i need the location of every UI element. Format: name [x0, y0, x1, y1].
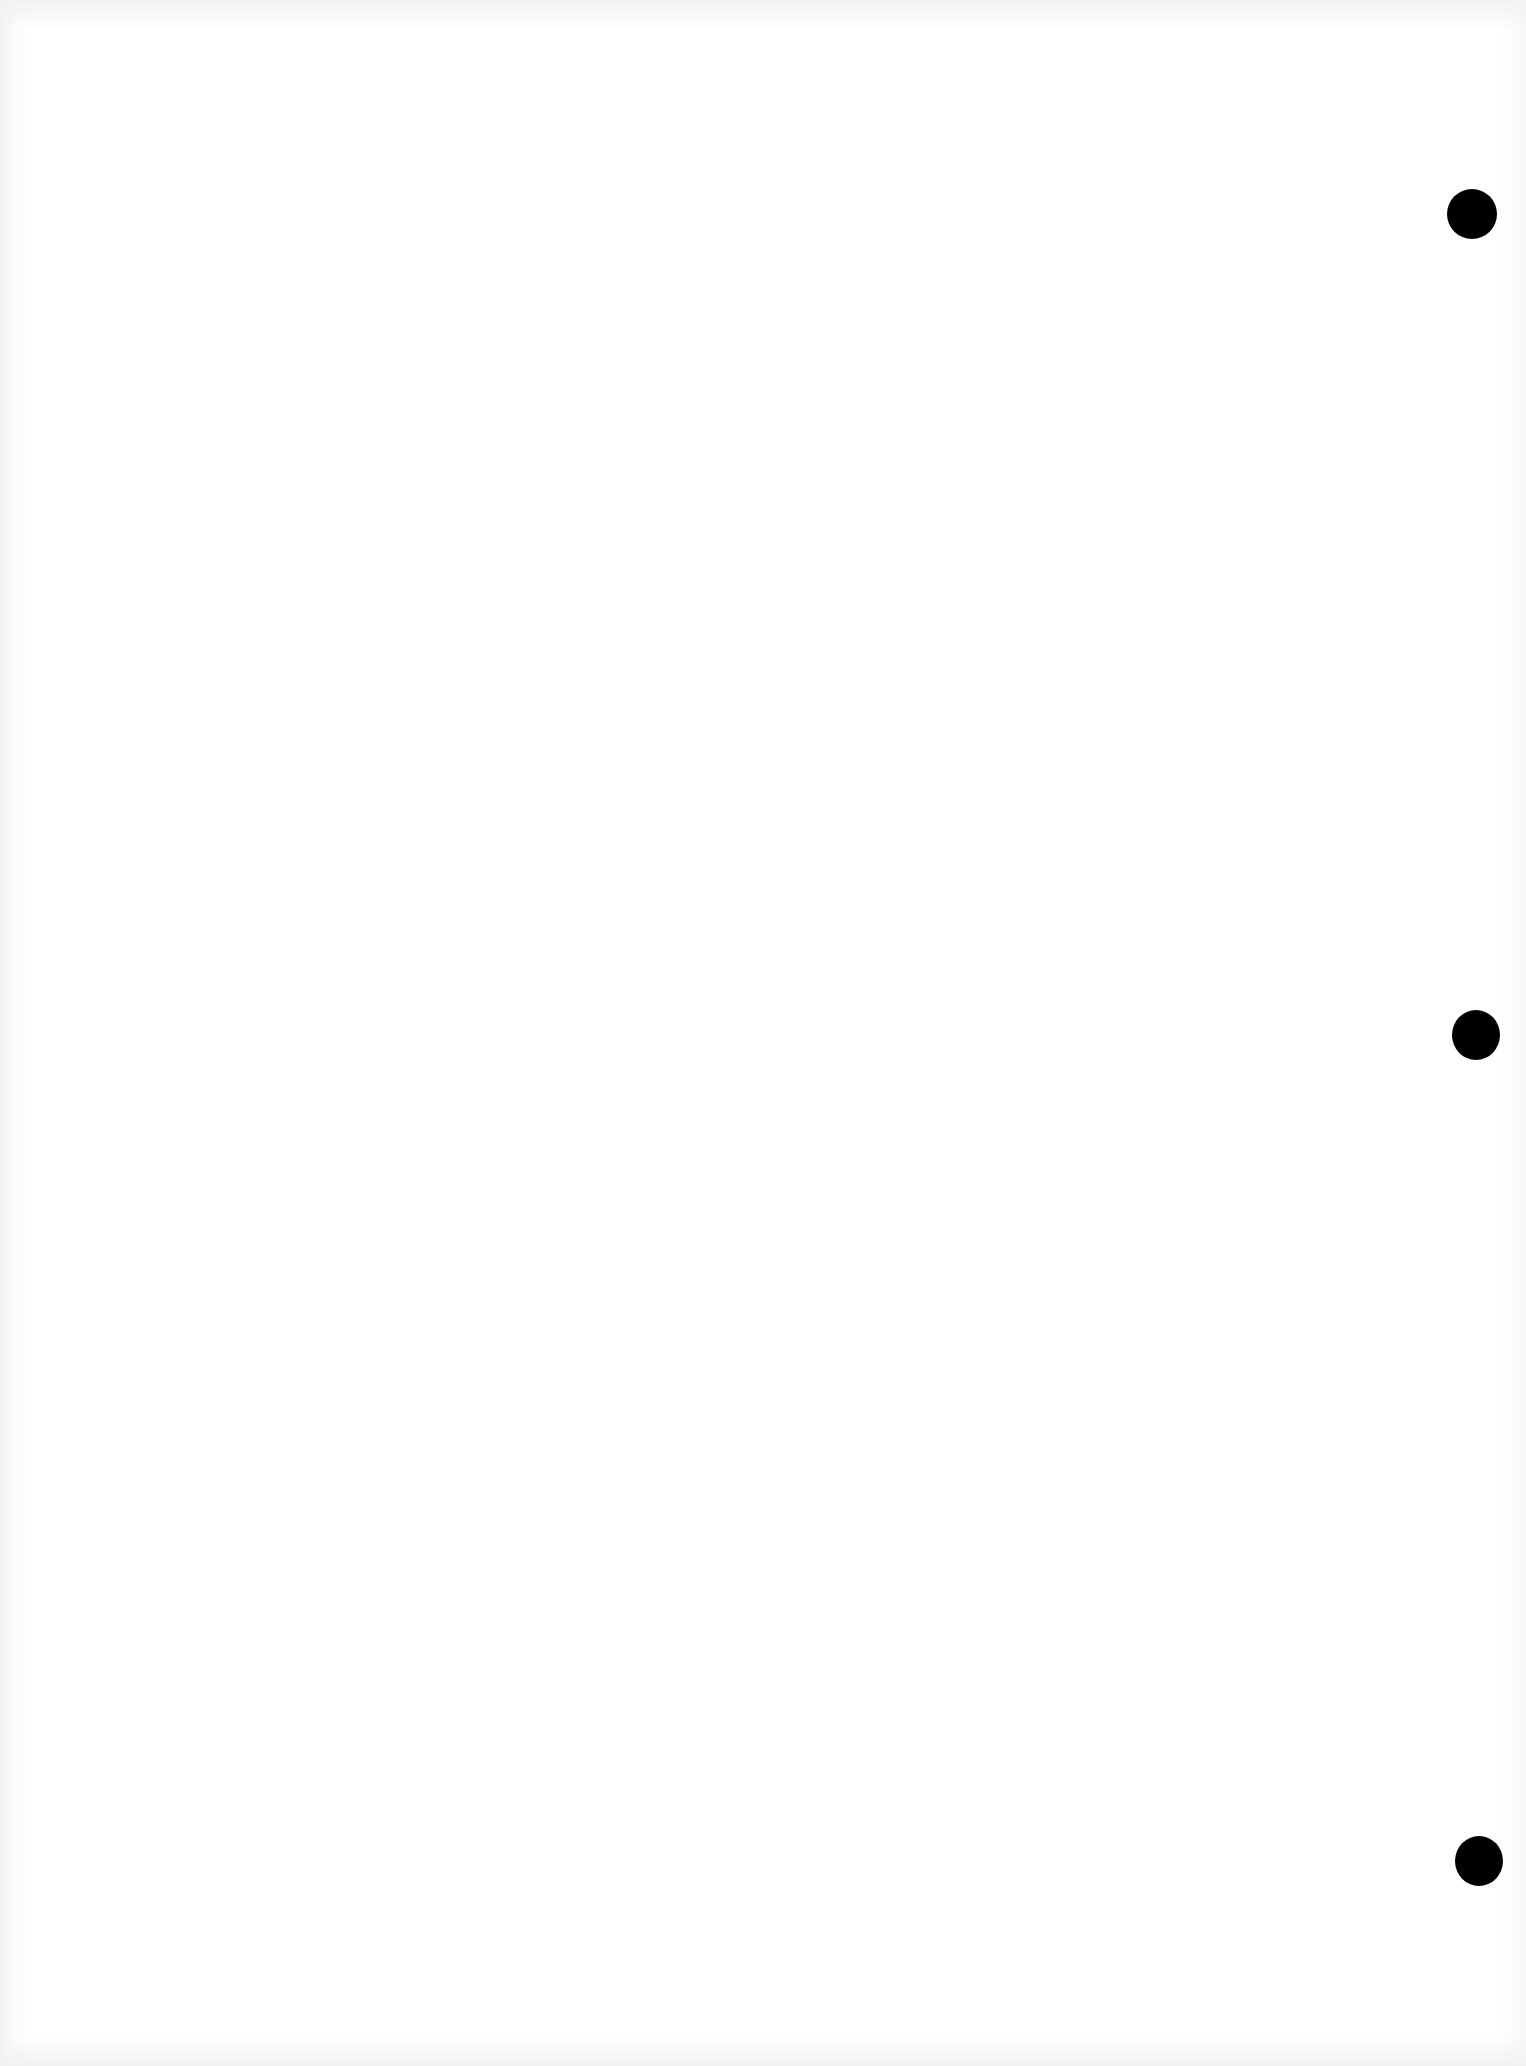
punch-hole-bottom: [1455, 1836, 1503, 1886]
blank-paper-page: [0, 0, 1526, 2066]
punch-hole-top: [1447, 189, 1497, 239]
punch-hole-middle: [1452, 1010, 1500, 1060]
